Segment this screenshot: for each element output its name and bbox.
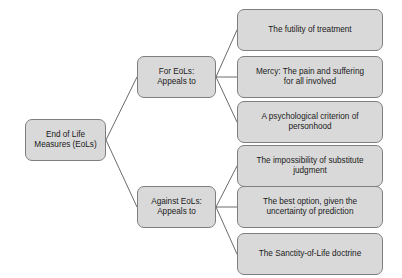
node-leaf-impossibility-substitute-judgment-label: The impossibility of substitute judgment xyxy=(257,156,364,176)
node-leaf-sanctity-of-life-doctrine[interactable]: The Sanctity-of-Life doctrine xyxy=(237,233,383,275)
connector-for-to-leaf-1 xyxy=(216,30,237,77)
node-leaf-impossibility-substitute-judgment[interactable]: The impossibility of substitute judgment xyxy=(237,145,383,187)
node-leaf-mercy-pain-suffering[interactable]: Mercy: The pain and suffering for all in… xyxy=(237,56,383,98)
connector-for-to-leaf-3 xyxy=(216,77,237,122)
node-branch-against-eols-label: Against EoLs: Appeals to xyxy=(151,197,202,217)
connector-against-to-leaf-1 xyxy=(216,166,237,207)
connector-against-to-leaf-3 xyxy=(216,207,237,254)
node-leaf-best-option-uncertainty-label: The best option, given the uncertainty o… xyxy=(263,197,357,217)
diagram-canvas: End of Life Measures (EoLs) For EoLs: Ap… xyxy=(0,0,402,278)
node-branch-for-eols-label: For EoLs: Appeals to xyxy=(157,67,196,87)
node-branch-for-eols[interactable]: For EoLs: Appeals to xyxy=(137,56,216,98)
node-branch-against-eols[interactable]: Against EoLs: Appeals to xyxy=(137,186,216,228)
node-leaf-sanctity-of-life-doctrine-label: The Sanctity-of-Life doctrine xyxy=(259,249,361,259)
node-leaf-psychological-criterion[interactable]: A psychological criterion of personhood xyxy=(237,101,383,143)
node-root-label: End of Life Measures (EoLs) xyxy=(34,130,96,150)
node-leaf-psychological-criterion-label: A psychological criterion of personhood xyxy=(262,112,359,132)
connector-root-to-against xyxy=(106,140,137,207)
node-leaf-futility-of-treatment[interactable]: The futility of treatment xyxy=(237,9,383,51)
node-leaf-futility-of-treatment-label: The futility of treatment xyxy=(268,25,351,35)
node-leaf-mercy-pain-suffering-label: Mercy: The pain and suffering for all in… xyxy=(256,67,364,87)
connector-root-to-for xyxy=(106,77,137,140)
node-root[interactable]: End of Life Measures (EoLs) xyxy=(25,119,106,161)
node-leaf-best-option-uncertainty[interactable]: The best option, given the uncertainty o… xyxy=(237,186,383,228)
